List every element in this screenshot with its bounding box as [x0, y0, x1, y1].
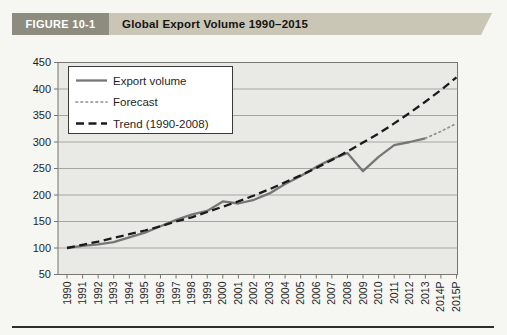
x-tick-label: 2009 [357, 281, 369, 305]
x-tick-label: 1991 [76, 281, 88, 305]
x-tick-label: 1994 [123, 281, 135, 305]
y-tick-label: 450 [33, 56, 51, 68]
x-tick-label: 2013 [419, 281, 431, 305]
x-tick-label: 2014P [434, 282, 446, 312]
x-tick-label: 1992 [92, 281, 104, 305]
bottom-rule [12, 326, 494, 328]
x-tick-label: 2000 [216, 281, 228, 305]
figure-panel: FIGURE 10-1 Global Export Volume 1990–20… [0, 0, 507, 335]
legend-label: Forecast [113, 96, 159, 108]
x-tick-label: 2001 [232, 281, 244, 305]
x-tick-label: 1996 [154, 281, 166, 305]
x-tick-label: 2004 [279, 281, 291, 305]
x-tick-label: 1995 [138, 281, 150, 305]
export-volume-line-chart: 4504003503002502001501005019901991199219… [0, 0, 507, 320]
x-tick-label: 2008 [341, 281, 353, 305]
legend-label: Trend (1990-2008) [113, 118, 209, 130]
x-tick-label: 2015P [450, 282, 462, 312]
x-tick-label: 2005 [294, 281, 306, 305]
x-tick-label: 1998 [185, 281, 197, 305]
x-tick-label: 2006 [310, 281, 322, 305]
x-tick-label: 1999 [201, 281, 213, 305]
y-tick-label: 350 [33, 109, 51, 121]
x-tick-label: 2010 [372, 281, 384, 305]
legend-label: Export volume [113, 75, 187, 87]
y-tick-label: 100 [33, 242, 51, 254]
x-tick-label: 2003 [263, 281, 275, 305]
x-tick-label: 2012 [403, 281, 415, 305]
y-tick-label: 300 [33, 136, 51, 148]
y-tick-label: 150 [33, 215, 51, 227]
y-tick-label: 250 [33, 162, 51, 174]
legend: Export volumeForecastTrend (1990-2008) [69, 67, 233, 134]
x-tick-label: 2002 [247, 281, 259, 305]
x-axis: 1990199119921993199419951996199719981999… [61, 275, 463, 312]
x-tick-label: 1993 [107, 281, 119, 305]
y-tick-label: 200 [33, 189, 51, 201]
y-tick-label: 50 [39, 268, 51, 280]
x-tick-label: 2011 [388, 281, 400, 304]
y-tick-label: 400 [33, 83, 51, 95]
x-tick-label: 1997 [170, 281, 182, 305]
x-tick-label: 1990 [61, 281, 73, 305]
x-tick-label: 2007 [325, 281, 337, 305]
